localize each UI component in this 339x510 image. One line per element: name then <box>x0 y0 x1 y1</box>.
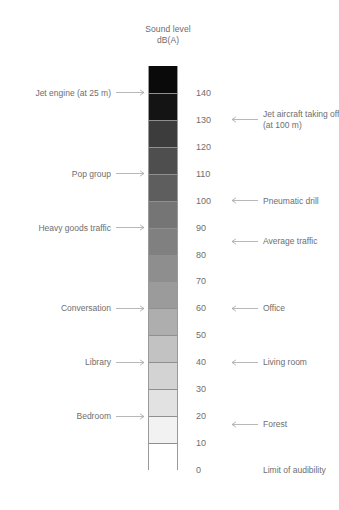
callout-left-label: Pop group <box>72 168 111 179</box>
tick-label-130: 130 <box>196 115 226 124</box>
callout-arrow <box>116 412 144 421</box>
callout-arrow <box>116 223 144 232</box>
callout-right-label: Limit of audibility <box>263 465 326 476</box>
colorbar-band-140 <box>149 66 177 93</box>
colorbar-band-10 <box>149 416 177 443</box>
tick-label-70: 70 <box>196 277 226 286</box>
callout-arrow <box>232 196 258 205</box>
colorbar-band-100 <box>149 174 177 201</box>
colorbar-band-130 <box>149 93 177 120</box>
colorbar-band-20 <box>149 389 177 416</box>
tick-label-40: 40 <box>196 358 226 367</box>
callout-arrow <box>116 169 144 178</box>
tick-label-120: 120 <box>196 142 226 151</box>
tick-label-140: 140 <box>196 88 226 97</box>
tick-label-60: 60 <box>196 304 226 313</box>
tick-label-110: 110 <box>196 169 226 178</box>
callout-arrow <box>116 358 144 367</box>
tick-label-10: 10 <box>196 439 226 448</box>
figure-title: Sound leveldB(A) <box>118 24 218 46</box>
callout-left-label: Bedroom <box>77 411 112 422</box>
callout-left-label: Jet engine (at 25 m) <box>35 87 111 98</box>
colorbar-band-120 <box>149 120 177 147</box>
colorbar-band-50 <box>149 308 177 335</box>
colorbar-band-80 <box>149 228 177 255</box>
colorbar-band-0 <box>149 443 177 470</box>
callout-left-label: Conversation <box>61 303 111 314</box>
callout-arrow <box>232 358 258 367</box>
tick-label-50: 50 <box>196 331 226 340</box>
colorbar-band-90 <box>149 201 177 228</box>
callout-right-label: Forest <box>263 419 287 430</box>
callout-left-label: Heavy goods traffic <box>38 222 111 233</box>
callout-right-label: Living room <box>263 357 307 368</box>
sound-level-colorbar <box>148 66 178 470</box>
colorbar-band-110 <box>149 147 177 174</box>
callout-right-label: Pneumatic drill <box>263 195 319 206</box>
tick-label-100: 100 <box>196 196 226 205</box>
callout-arrow <box>232 237 258 246</box>
callout-right-label: Jet aircraft taking off (at 100 m) <box>263 109 339 131</box>
callout-arrow <box>232 420 258 429</box>
tick-label-0: 0 <box>196 466 226 475</box>
colorbar-band-30 <box>149 362 177 389</box>
callout-left-label: Library <box>85 357 111 368</box>
figure-title-line2: dB(A) <box>157 35 179 45</box>
callout-arrow <box>232 115 258 124</box>
tick-label-80: 80 <box>196 250 226 259</box>
tick-label-20: 20 <box>196 412 226 421</box>
tick-label-30: 30 <box>196 385 226 394</box>
tick-label-90: 90 <box>196 223 226 232</box>
colorbar-band-40 <box>149 335 177 362</box>
callout-arrow <box>116 88 144 97</box>
colorbar-band-70 <box>149 255 177 282</box>
callout-right-label: Average traffic <box>263 236 318 247</box>
callout-right-label: Office <box>263 303 285 314</box>
callout-arrow <box>116 304 144 313</box>
figure-title-line1: Sound level <box>145 24 191 34</box>
callout-arrow <box>232 304 258 313</box>
colorbar-band-60 <box>149 281 177 308</box>
